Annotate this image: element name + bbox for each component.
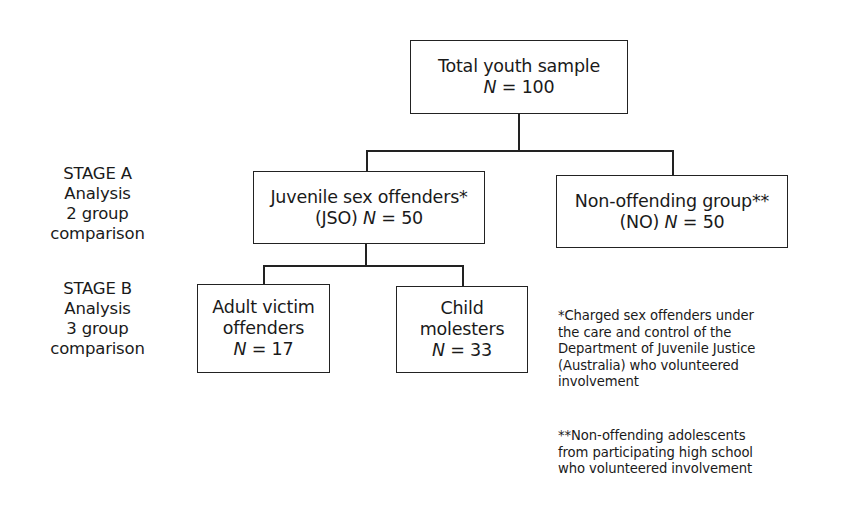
diagram-canvas: Total youth sample N = 100 STAGE A Analy… bbox=[0, 0, 856, 524]
connector-root-down bbox=[518, 114, 520, 151]
no-label: Non-offending group** bbox=[575, 191, 769, 212]
adult-victim-n: N = 17 bbox=[234, 339, 294, 360]
footnote-jso: *Charged sex offenders under the care an… bbox=[558, 308, 755, 391]
total-sample-box: Total youth sample N = 100 bbox=[410, 40, 628, 114]
jso-label: Juvenile sex offenders* bbox=[270, 187, 467, 208]
total-sample-n: N = 100 bbox=[484, 77, 555, 98]
stage-a-label: STAGE A Analysis 2 group comparison bbox=[40, 164, 155, 244]
connector-to-adult-victim bbox=[263, 265, 265, 284]
connector-to-child-molesters bbox=[462, 265, 464, 287]
connector-jso-down bbox=[365, 244, 367, 266]
no-n: (NO) N = 50 bbox=[619, 212, 724, 233]
jso-n: (JSO) N = 50 bbox=[315, 208, 423, 229]
connector-to-jso bbox=[366, 150, 368, 172]
footnote-non-offending: **Non-offending adolescents from partici… bbox=[558, 428, 753, 478]
stage-b-label: STAGE B Analysis 3 group comparison bbox=[40, 279, 155, 359]
child-molesters-box: Child molesters N = 33 bbox=[396, 286, 528, 373]
connector-to-no bbox=[672, 150, 674, 176]
jso-box: Juvenile sex offenders* (JSO) N = 50 bbox=[253, 171, 485, 244]
total-sample-label: Total youth sample bbox=[438, 56, 600, 77]
connector-stage-b-horizontal bbox=[263, 265, 463, 267]
connector-stage-a-horizontal bbox=[366, 150, 673, 152]
adult-victim-offenders-box: Adult victim offenders N = 17 bbox=[197, 284, 330, 373]
child-molesters-n: N = 33 bbox=[432, 340, 492, 361]
non-offending-box: Non-offending group** (NO) N = 50 bbox=[556, 175, 788, 248]
